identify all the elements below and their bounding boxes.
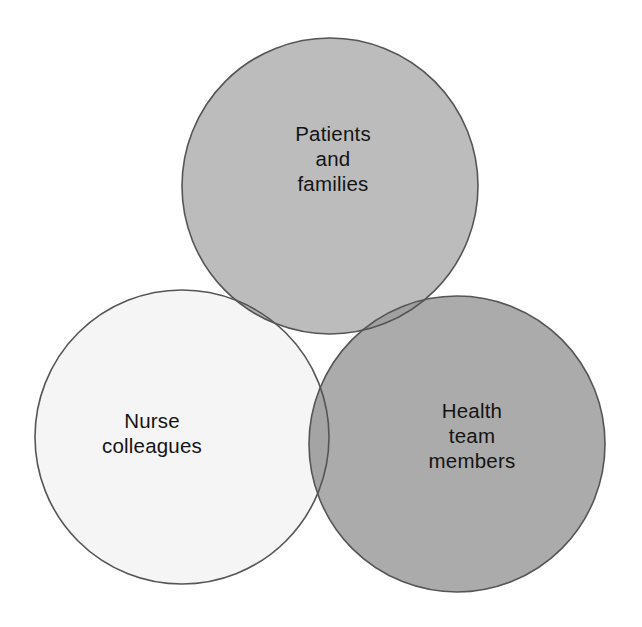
venn-diagram-canvas: Patientsandfamilies Nursecolleagues Heal… xyxy=(0,0,642,627)
venn-diagram-figure: Patientsandfamilies Nursecolleagues Heal… xyxy=(0,0,642,627)
